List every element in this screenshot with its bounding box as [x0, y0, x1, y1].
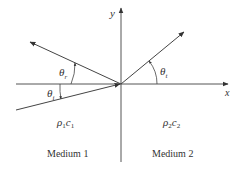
reflection-diagram: y x θr θi θt ρ1c1 ρ2c2 Medium 1 Medium 2: [0, 0, 240, 169]
medium-2-label: Medium 2: [152, 148, 193, 159]
theta-t-label: θt: [160, 65, 168, 80]
medium-2-impedance: ρ2c2: [162, 116, 181, 130]
incident-ray: [16, 84, 120, 110]
x-axis-label: x: [224, 87, 230, 98]
theta-r-arc: [71, 63, 75, 84]
medium-1-label: Medium 1: [47, 148, 88, 159]
reflected-ray: [30, 42, 121, 84]
theta-i-label: θi: [47, 87, 54, 102]
transmitted-ray: [121, 32, 184, 84]
theta-i-arc: [60, 84, 61, 99]
theta-t-arc: [149, 61, 157, 84]
medium-1-impedance: ρ1c1: [56, 116, 75, 130]
theta-r-label: θr: [59, 66, 67, 81]
y-axis-label: y: [109, 7, 115, 19]
